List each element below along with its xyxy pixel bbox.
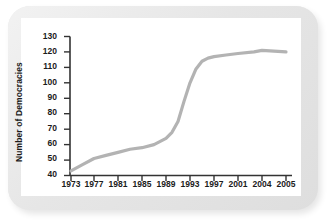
chart-svg: [21, 18, 301, 196]
chart-screenshot: Number of Democracies 130 120 110 100 90…: [0, 0, 329, 221]
y-axis-ticks: [64, 37, 70, 176]
x-axis-ticks: [71, 176, 286, 182]
plot-area: Number of Democracies 130 120 110 100 90…: [21, 18, 301, 196]
data-line-number-of-democracies: [71, 50, 286, 170]
chart-panel: Number of Democracies 130 120 110 100 90…: [21, 18, 301, 196]
